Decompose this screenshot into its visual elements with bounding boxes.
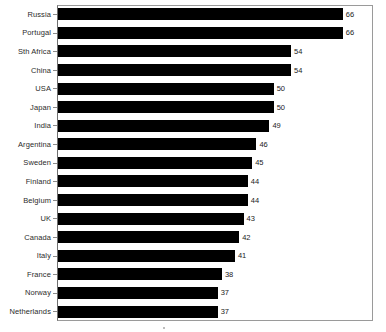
bar-track: 50 <box>58 79 372 98</box>
scan-artifact-speck <box>163 327 165 329</box>
category-label: Italy <box>0 251 51 260</box>
bar-track: 41 <box>58 247 372 266</box>
bar-track: 46 <box>58 135 372 154</box>
bar-value-label: 38 <box>225 270 233 279</box>
category-label: Netherlands <box>0 307 51 316</box>
axis-tick <box>53 256 57 257</box>
bar <box>58 27 343 39</box>
axis-tick <box>53 14 57 15</box>
bar-row: India49 <box>0 116 386 135</box>
bar <box>58 138 256 150</box>
bar <box>58 120 269 132</box>
bar-row: Canada42 <box>0 228 386 247</box>
bar <box>58 268 222 280</box>
axis-tick <box>53 51 57 52</box>
bar <box>58 213 244 225</box>
bar-value-label: 41 <box>238 251 246 260</box>
axis-tick <box>53 218 57 219</box>
category-label: Argentina <box>0 140 51 149</box>
bar <box>58 8 343 20</box>
bar-value-label: 54 <box>294 66 302 75</box>
category-label: Russia <box>0 10 51 19</box>
category-label: Norway <box>0 288 51 297</box>
category-label: USA <box>0 84 51 93</box>
bar-row: Japan50 <box>0 98 386 117</box>
axis-tick <box>53 293 57 294</box>
bar-value-label: 45 <box>255 158 263 167</box>
bar-track: 66 <box>58 5 372 24</box>
category-label: UK <box>0 214 51 223</box>
bar-value-label: 42 <box>242 233 250 242</box>
bar-value-label: 54 <box>294 47 302 56</box>
bar-track: 43 <box>58 209 372 228</box>
bar <box>58 175 248 187</box>
axis-tick <box>53 107 57 108</box>
bar <box>58 64 291 76</box>
category-label: Belgium <box>0 196 51 205</box>
bar-value-label: 66 <box>346 28 354 37</box>
bar-track: 54 <box>58 61 372 80</box>
axis-tick <box>53 200 57 201</box>
bar <box>58 231 239 243</box>
category-label: Sth Africa <box>0 47 51 56</box>
bar <box>58 250 235 262</box>
bar-track: 49 <box>58 116 372 135</box>
bar-row: Belgium44 <box>0 191 386 210</box>
bar-value-label: 66 <box>346 10 354 19</box>
category-label: Finland <box>0 177 51 186</box>
bar <box>58 194 248 206</box>
bar-value-label: 49 <box>272 121 280 130</box>
bar-row: China54 <box>0 61 386 80</box>
bar <box>58 45 291 57</box>
bar <box>58 157 252 169</box>
axis-tick <box>53 144 57 145</box>
bar-row: UK43 <box>0 209 386 228</box>
bar-value-label: 43 <box>247 214 255 223</box>
category-label: Japan <box>0 103 51 112</box>
bar-track: 42 <box>58 228 372 247</box>
category-label: Portugal <box>0 28 51 37</box>
bar-row: Russia66 <box>0 5 386 24</box>
axis-tick <box>53 181 57 182</box>
bar-row: Netherlands37 <box>0 302 386 321</box>
bar-track: 66 <box>58 24 372 43</box>
bar-row: Norway37 <box>0 284 386 303</box>
bar-track: 37 <box>58 302 372 321</box>
bar-value-label: 50 <box>277 84 285 93</box>
bar-value-label: 37 <box>221 288 229 297</box>
bar-track: 37 <box>58 284 372 303</box>
axis-tick <box>53 70 57 71</box>
bar-value-label: 50 <box>277 103 285 112</box>
axis-tick <box>53 311 57 312</box>
axis-tick <box>53 33 57 34</box>
category-label: Canada <box>0 233 51 242</box>
category-label: Sweden <box>0 158 51 167</box>
bar-track: 45 <box>58 154 372 173</box>
bar <box>58 306 218 318</box>
bar-row: France38 <box>0 265 386 284</box>
bar <box>58 83 274 95</box>
bar-track: 50 <box>58 98 372 117</box>
category-label: France <box>0 270 51 279</box>
bar-track: 44 <box>58 191 372 210</box>
bar-row: Argentina46 <box>0 135 386 154</box>
category-label: India <box>0 121 51 130</box>
bar-value-label: 44 <box>251 177 259 186</box>
axis-tick <box>53 125 57 126</box>
axis-tick <box>53 163 57 164</box>
bar <box>58 101 274 113</box>
bar-track: 54 <box>58 42 372 61</box>
bar-row: USA50 <box>0 79 386 98</box>
category-label: China <box>0 66 51 75</box>
bar-row: Sweden45 <box>0 154 386 173</box>
axis-tick <box>53 237 57 238</box>
bar-row: Portugal66 <box>0 24 386 43</box>
bar-track: 44 <box>58 172 372 191</box>
bar-row: Sth Africa54 <box>0 42 386 61</box>
bar-value-label: 46 <box>259 140 267 149</box>
bar-rows: Russia66Portugal66Sth Africa54China54USA… <box>0 5 386 321</box>
axis-tick <box>53 88 57 89</box>
bar-row: Finland44 <box>0 172 386 191</box>
bar-value-label: 37 <box>221 307 229 316</box>
bar-row: Italy41 <box>0 247 386 266</box>
